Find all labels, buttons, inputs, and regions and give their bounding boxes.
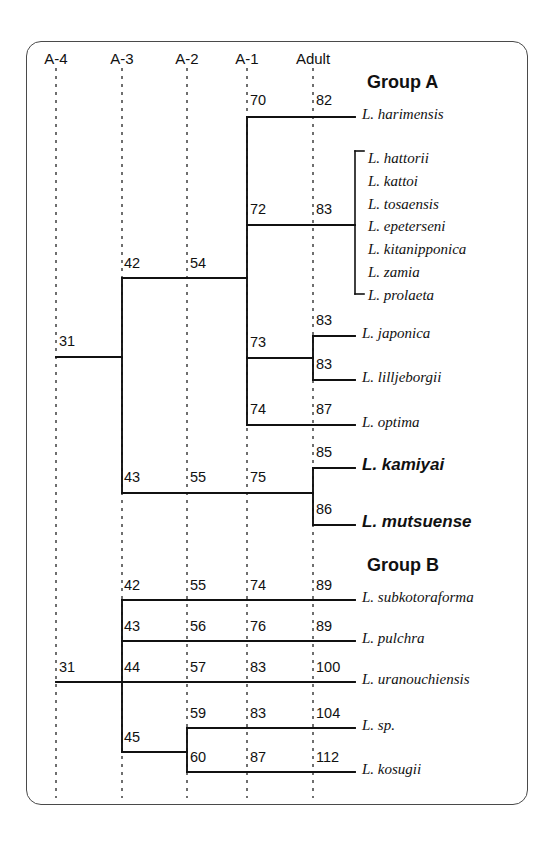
node-value: 104: [316, 705, 340, 721]
node-value: 89: [316, 618, 332, 634]
taxon-label: L. kosugii: [362, 761, 421, 778]
taxon-label: L. harimensis: [362, 106, 444, 123]
node-value: 45: [124, 729, 140, 745]
stage-label-a1: A-1: [235, 50, 258, 67]
node-value: 83: [316, 201, 332, 217]
node-value: 82: [316, 92, 332, 108]
group-label-a: Group A: [367, 72, 438, 93]
taxon-label: L. hattorii: [368, 150, 429, 167]
node-value: 72: [250, 201, 266, 217]
node-value: 43: [124, 469, 140, 485]
node-value: 44: [124, 659, 140, 675]
group-label-b: Group B: [367, 555, 439, 576]
node-value: 59: [190, 705, 206, 721]
stage-label-a3: A-3: [110, 50, 133, 67]
node-value: 42: [124, 577, 140, 593]
node-value: 76: [250, 618, 266, 634]
node-value: 31: [59, 333, 75, 349]
taxon-label: L. optima: [362, 414, 420, 431]
node-value: 73: [250, 334, 266, 350]
node-value: 83: [316, 312, 332, 328]
taxon-label: L. mutsuense: [362, 512, 472, 532]
taxon-label: L. prolaeta: [368, 287, 434, 304]
node-value: 85: [316, 444, 332, 460]
node-value: 112: [316, 749, 339, 765]
stage-guide-lines: [56, 68, 313, 798]
taxon-label: L. zamia: [368, 264, 420, 281]
node-value: 54: [190, 255, 206, 271]
node-value: 83: [316, 356, 332, 372]
taxon-label: L. kitanipponica: [368, 241, 466, 258]
taxon-label: L. tosaensis: [368, 196, 439, 213]
node-value: 60: [190, 749, 206, 765]
node-value: 70: [250, 92, 266, 108]
node-value: 55: [190, 469, 206, 485]
taxon-label: L. kamiyai: [362, 455, 444, 475]
node-value: 43: [124, 618, 140, 634]
taxon-label: L. japonica: [362, 325, 430, 342]
node-value: 31: [59, 659, 75, 675]
taxon-label: L. kattoi: [368, 173, 418, 190]
node-value: 56: [190, 618, 206, 634]
node-value: 42: [124, 255, 140, 271]
taxon-label: L. pulchra: [362, 630, 425, 647]
node-value: 100: [316, 659, 340, 675]
node-value: 89: [316, 577, 332, 593]
taxon-label: L. subkotoraforma: [362, 589, 474, 606]
tree-lines: [0, 0, 553, 844]
taxon-label: L. lilljeborgii: [362, 369, 441, 386]
node-value: 55: [190, 577, 206, 593]
taxon-label: L. uranouchiensis: [362, 671, 470, 688]
hattorii-clade-bracket: [355, 151, 364, 294]
node-value: 86: [316, 501, 332, 517]
node-value: 74: [250, 577, 266, 593]
taxon-label: L. sp.: [362, 717, 395, 734]
node-value: 57: [190, 659, 206, 675]
cladogram-figure: A-4 A-3 A-2 A-1 Adult Group A Group B 70…: [0, 0, 553, 844]
taxon-label: L. epeterseni: [368, 218, 445, 235]
node-value: 83: [250, 659, 266, 675]
node-value: 83: [250, 705, 266, 721]
node-value: 87: [250, 749, 266, 765]
node-value: 87: [316, 401, 332, 417]
node-value: 75: [250, 469, 266, 485]
node-value: 74: [250, 401, 266, 417]
stage-label-adult: Adult: [296, 50, 330, 67]
stage-label-a4: A-4: [44, 50, 67, 67]
stage-label-a2: A-2: [175, 50, 198, 67]
